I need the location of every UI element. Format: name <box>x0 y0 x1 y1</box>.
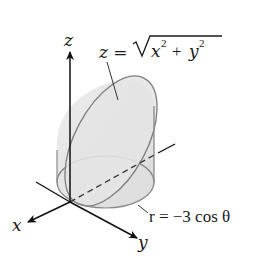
svg-text:2: 2 <box>161 37 167 49</box>
cylinder-leader-line <box>138 205 148 213</box>
x-axis-label: x <box>12 215 22 235</box>
z-axis-label: z <box>63 30 74 50</box>
svg-text:+: + <box>172 42 182 61</box>
cone-equation-label: z = x 2 + y 2 <box>98 36 222 62</box>
solid-region-diagram: z x y z = x 2 + y 2 r = −3 cos θ <box>0 0 273 268</box>
y-axis-label: y <box>137 232 148 252</box>
x-axis <box>28 202 70 222</box>
y-axis-back-extension <box>158 144 175 153</box>
svg-text:x: x <box>151 41 161 61</box>
svg-text:y: y <box>188 41 199 61</box>
cylinder-equation-label: r = −3 cos θ <box>149 207 230 226</box>
svg-text:2: 2 <box>199 37 205 49</box>
svg-text:z =: z = <box>98 42 128 62</box>
